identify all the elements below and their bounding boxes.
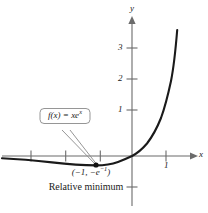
- x-tick-label-1: 1: [164, 161, 169, 170]
- y-tick-label-3: 3: [118, 43, 123, 52]
- relative-minimum-coordinate-label: (−1, −e−1): [60, 168, 122, 177]
- x-axis-arrow-icon: [190, 152, 198, 159]
- callout-leader-line-right: [70, 130, 97, 164]
- y-axis-arrow-icon: [128, 16, 135, 24]
- figure-caption: Relative minimum: [26, 182, 146, 192]
- function-curve: [2, 30, 177, 165]
- x-axis-label: x: [199, 150, 203, 159]
- callout-leader-line-left: [62, 130, 95, 164]
- function-equation-base: f(x) = xe: [48, 110, 79, 120]
- y-tick-label-1: 1: [118, 105, 123, 114]
- y-axis-label: y: [130, 4, 134, 13]
- function-equation-exponent: x: [79, 108, 82, 115]
- function-equation-label: f(x) = xex: [42, 111, 88, 120]
- point-label-prefix: (−1, −e: [72, 167, 100, 177]
- y-tick-label-2: 2: [118, 74, 123, 83]
- function-graph-figure: 1 2 3 1 y x f(x) = xex (−1, −e−1) Relati…: [0, 0, 208, 213]
- point-label-suffix: ): [107, 167, 110, 177]
